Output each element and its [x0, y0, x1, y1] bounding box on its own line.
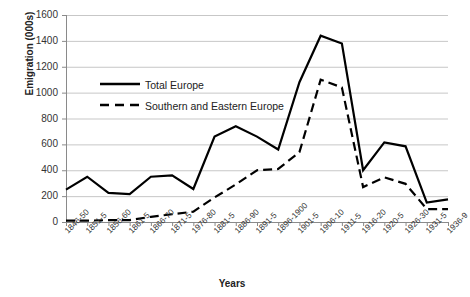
- y-tick-label: 1200: [22, 62, 58, 72]
- y-tick-label: 800: [22, 114, 58, 124]
- y-tick-label: 1000: [22, 88, 58, 98]
- legend-label-total-europe: Total Europe: [145, 79, 204, 91]
- y-tick-label: 600: [22, 139, 58, 149]
- y-tick-label: 400: [22, 165, 58, 175]
- y-tick-label: 1400: [22, 36, 58, 46]
- y-tick-label: 0: [22, 217, 58, 227]
- legend-label-southern-eastern-europe: Southern and Eastern Europe: [145, 100, 284, 112]
- x-axis-title: Years: [0, 278, 464, 289]
- y-tick-label: 1600: [22, 10, 58, 20]
- y-tick-label: 200: [22, 191, 58, 201]
